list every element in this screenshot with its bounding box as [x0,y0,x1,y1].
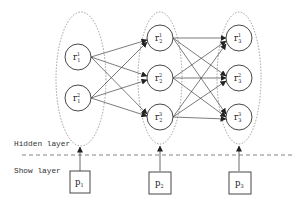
svg-text:r22: r22 [155,72,162,84]
svg-text:r23: r23 [234,72,241,84]
node-r1-1: r11 [65,44,91,70]
node-r3-1: r13 [226,25,252,51]
node-r2-3: r32 [147,104,173,130]
node-r2-2: r22 [147,65,173,91]
svg-text:r11: r11 [73,51,80,63]
svg-text:r32: r32 [155,111,162,123]
svg-text:r33: r33 [234,111,241,123]
show-layer-label: Show layer [14,167,61,175]
group-1-ellipse [56,12,106,146]
input-box-p1: p1 [70,171,90,193]
svg-text:r21: r21 [73,92,80,104]
input-box-p3: p3 [229,172,251,194]
svg-text:r12: r12 [155,32,162,44]
node-r1-2: r21 [65,85,91,111]
node-r3-2: r23 [226,65,252,91]
input-arrows [80,146,239,171]
node-r3-3: r33 [226,104,252,130]
hidden-layer-label: Hidden layer [14,140,70,148]
node-r2-1: r12 [147,25,173,51]
input-box-p2: p2 [149,172,171,194]
network-diagram: r11 r21 r12 r22 r32 r13 r23 r33 Hidden l… [0,0,300,206]
edges-g2-g3 [173,38,226,119]
svg-text:r13: r13 [234,32,241,44]
edges-g1-g2 [91,40,147,116]
